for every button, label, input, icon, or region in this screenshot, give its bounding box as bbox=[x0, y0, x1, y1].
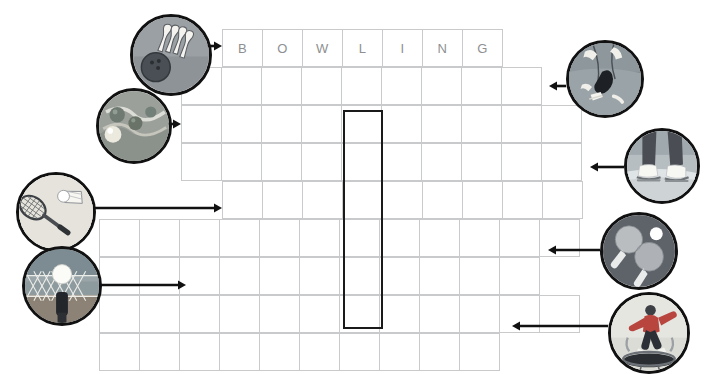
grid-cell-r8-c5[interactable] bbox=[259, 295, 300, 333]
grid-cell-r6-c4[interactable] bbox=[219, 219, 260, 257]
grid-cell-r1-c4[interactable]: L bbox=[342, 29, 383, 67]
clue-bowling[interactable] bbox=[130, 14, 212, 96]
grid-cell-r8-c4[interactable] bbox=[219, 295, 260, 333]
grid-cell-r1-c2[interactable]: O bbox=[262, 29, 303, 67]
grid-cell-r9-c9[interactable] bbox=[419, 333, 460, 371]
grid-cell-r7-c2[interactable] bbox=[139, 257, 180, 295]
grid-cell-r6-c1[interactable] bbox=[99, 219, 140, 257]
grid-cell-r2-c3[interactable] bbox=[261, 67, 302, 105]
grid-cell-r1-c3[interactable]: W bbox=[302, 29, 343, 67]
grid-cell-r8-c6[interactable] bbox=[299, 295, 340, 333]
grid-row-2 bbox=[181, 67, 541, 104]
grid-cell-r3-c2[interactable] bbox=[221, 105, 262, 143]
grid-cell-r9-c5[interactable] bbox=[259, 333, 300, 371]
grid-cell-r6-c9[interactable] bbox=[419, 219, 460, 257]
grid-cell-r3-c7[interactable] bbox=[421, 105, 462, 143]
grid-cell-r4-c9[interactable] bbox=[501, 143, 542, 181]
grid-cell-r5-c6[interactable] bbox=[422, 181, 463, 219]
grid-cell-r2-c6[interactable] bbox=[381, 67, 422, 105]
grid-cell-r9-c6[interactable] bbox=[299, 333, 340, 371]
grid-cell-r7-c9[interactable] bbox=[419, 257, 460, 295]
grid-cell-r3-c10[interactable] bbox=[541, 105, 582, 143]
grid-cell-r2-c5[interactable] bbox=[341, 67, 382, 105]
grid-cell-r9-c8[interactable] bbox=[379, 333, 420, 371]
clue-marbles[interactable] bbox=[96, 88, 172, 164]
clue-volleyball[interactable] bbox=[22, 246, 102, 326]
grid-cell-r8-c8[interactable] bbox=[379, 295, 420, 333]
clue-badminton[interactable] bbox=[16, 172, 96, 252]
grid-cell-r4-c7[interactable] bbox=[421, 143, 462, 181]
grid-cell-r8-c3[interactable] bbox=[179, 295, 220, 333]
grid-cell-r5-c3[interactable] bbox=[302, 181, 343, 219]
grid-cell-r9-c10[interactable] bbox=[459, 333, 500, 371]
grid-cell-r8-c1[interactable] bbox=[99, 295, 140, 333]
grid-cell-r1-c1[interactable]: B bbox=[222, 29, 263, 67]
grid-cell-r1-c5[interactable]: I bbox=[382, 29, 423, 67]
grid-cell-r8-c2[interactable] bbox=[139, 295, 180, 333]
grid-cell-r4-c1[interactable] bbox=[181, 143, 222, 181]
grid-cell-r2-c9[interactable] bbox=[501, 67, 542, 105]
grid-row-5 bbox=[222, 181, 582, 218]
grid-cell-r7-c11[interactable] bbox=[499, 257, 540, 295]
grid-cell-r4-c6[interactable] bbox=[381, 143, 422, 181]
grid-cell-r2-c2[interactable] bbox=[221, 67, 262, 105]
grid-cell-r4-c5[interactable] bbox=[341, 143, 382, 181]
grid-cell-r2-c7[interactable] bbox=[421, 67, 462, 105]
grid-cell-r5-c9[interactable] bbox=[542, 181, 583, 219]
grid-cell-r3-c3[interactable] bbox=[261, 105, 302, 143]
grid-cell-r3-c4[interactable] bbox=[301, 105, 342, 143]
grid-cell-r8-c10[interactable] bbox=[459, 295, 500, 333]
grid-cell-r6-c6[interactable] bbox=[299, 219, 340, 257]
grid-cell-r5-c8[interactable] bbox=[502, 181, 543, 219]
grid-cell-r4-c2[interactable] bbox=[221, 143, 262, 181]
grid-cell-r1-c6[interactable]: N bbox=[422, 29, 463, 67]
grid-cell-r9-c7[interactable] bbox=[339, 333, 380, 371]
grid-cell-r7-c7[interactable] bbox=[339, 257, 380, 295]
grid-cell-r3-c1[interactable] bbox=[181, 105, 222, 143]
grid-cell-r5-c7[interactable] bbox=[462, 181, 503, 219]
grid-cell-r5-c4[interactable] bbox=[342, 181, 383, 219]
grid-cell-r6-c12[interactable] bbox=[539, 219, 580, 257]
grid-cell-r5-c2[interactable] bbox=[262, 181, 303, 219]
grid-cell-r3-c6[interactable] bbox=[381, 105, 422, 143]
grid-cell-r2-c4[interactable] bbox=[301, 67, 342, 105]
grid-cell-r7-c5[interactable] bbox=[259, 257, 300, 295]
grid-cell-r3-c8[interactable] bbox=[461, 105, 502, 143]
clue-figure-skating[interactable] bbox=[566, 40, 644, 118]
grid-cell-r6-c5[interactable] bbox=[259, 219, 300, 257]
grid-cell-r9-c4[interactable] bbox=[219, 333, 260, 371]
grid-row-8 bbox=[99, 295, 579, 332]
clue-ice-skates[interactable] bbox=[624, 128, 700, 204]
grid-cell-r8-c11[interactable] bbox=[499, 295, 540, 333]
grid-cell-r4-c8[interactable] bbox=[461, 143, 502, 181]
grid-cell-r1-c7[interactable]: G bbox=[462, 29, 503, 67]
grid-cell-r7-c10[interactable] bbox=[459, 257, 500, 295]
grid-cell-r7-c8[interactable] bbox=[379, 257, 420, 295]
grid-cell-r4-c4[interactable] bbox=[301, 143, 342, 181]
grid-cell-r5-c5[interactable] bbox=[382, 181, 423, 219]
grid-cell-r4-c10[interactable] bbox=[541, 143, 582, 181]
grid-cell-r9-c3[interactable] bbox=[179, 333, 220, 371]
grid-cell-r6-c2[interactable] bbox=[139, 219, 180, 257]
grid-cell-r5-c1[interactable] bbox=[222, 181, 263, 219]
grid-cell-r6-c10[interactable] bbox=[459, 219, 500, 257]
clue-table-tennis[interactable] bbox=[600, 212, 678, 290]
grid-cell-r9-c2[interactable] bbox=[139, 333, 180, 371]
grid-cell-r6-c3[interactable] bbox=[179, 219, 220, 257]
clue-trampoline[interactable] bbox=[608, 292, 690, 374]
grid-cell-r8-c7[interactable] bbox=[339, 295, 380, 333]
grid-cell-r9-c1[interactable] bbox=[99, 333, 140, 371]
grid-cell-r6-c11[interactable] bbox=[499, 219, 540, 257]
grid-cell-r2-c8[interactable] bbox=[461, 67, 502, 105]
grid-cell-r8-c12[interactable] bbox=[539, 295, 580, 333]
grid-cell-r7-c1[interactable] bbox=[99, 257, 140, 295]
grid-cell-r7-c6[interactable] bbox=[299, 257, 340, 295]
grid-cell-r6-c8[interactable] bbox=[379, 219, 420, 257]
grid-cell-r3-c9[interactable] bbox=[501, 105, 542, 143]
grid-cell-r3-c5[interactable] bbox=[341, 105, 382, 143]
grid-cell-r8-c9[interactable] bbox=[419, 295, 460, 333]
grid-cell-r7-c4[interactable] bbox=[219, 257, 260, 295]
grid-cell-r7-c3[interactable] bbox=[179, 257, 220, 295]
grid-cell-r6-c7[interactable] bbox=[339, 219, 380, 257]
grid-cell-r4-c3[interactable] bbox=[261, 143, 302, 181]
